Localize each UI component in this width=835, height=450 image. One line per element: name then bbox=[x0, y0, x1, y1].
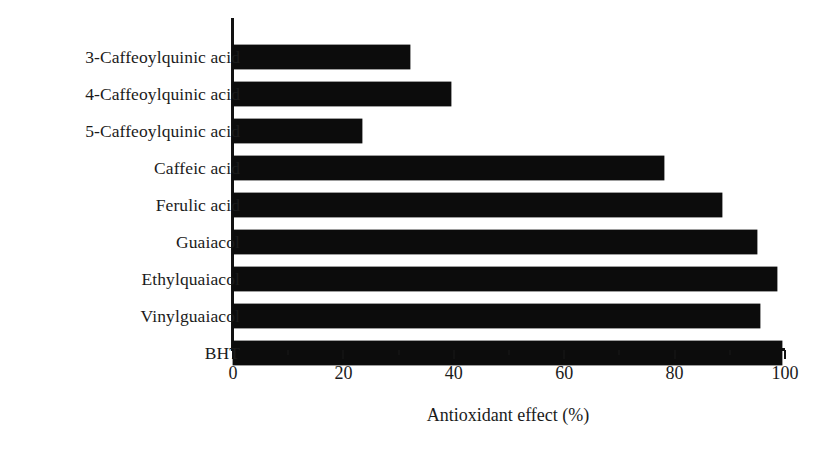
category-label: 4-Caffeoylquinic acid bbox=[10, 82, 240, 106]
bar-fill bbox=[233, 82, 451, 106]
x-axis-tick-label: 20 bbox=[313, 362, 373, 384]
x-axis-minor-tick bbox=[729, 350, 731, 355]
bar-fill bbox=[233, 45, 410, 69]
x-axis-major-tick bbox=[563, 350, 565, 359]
bar bbox=[233, 156, 664, 180]
category-label: 5-Caffeoylquinic acid bbox=[10, 119, 240, 143]
bar-fill bbox=[233, 193, 722, 217]
bar-fill bbox=[233, 119, 362, 143]
bar-fill bbox=[233, 156, 664, 180]
plot-area: 3-Caffeoylquinic acid4-Caffeoylquinic ac… bbox=[0, 0, 835, 450]
x-axis-minor-tick bbox=[398, 350, 400, 355]
antioxidant-effect-bar-chart: 3-Caffeoylquinic acid4-Caffeoylquinic ac… bbox=[0, 0, 835, 450]
category-label: Ethylquaiacol bbox=[10, 267, 240, 291]
bar-fill bbox=[233, 304, 760, 328]
category-label: 3-Caffeoylquinic acid bbox=[10, 45, 240, 69]
x-axis-tick-label: 80 bbox=[645, 362, 705, 384]
x-axis-major-tick bbox=[342, 350, 344, 359]
bar bbox=[233, 230, 757, 254]
category-label: Ferulic acid bbox=[10, 193, 240, 217]
x-axis-minor-tick bbox=[618, 350, 620, 355]
category-label: Caffeic acid bbox=[10, 156, 240, 180]
bar bbox=[233, 82, 451, 106]
bar bbox=[233, 119, 362, 143]
x-axis-major-tick bbox=[674, 350, 676, 359]
x-axis-minor-tick bbox=[287, 350, 289, 355]
bar bbox=[233, 193, 722, 217]
bar-fill bbox=[233, 267, 777, 291]
bar bbox=[233, 267, 777, 291]
x-axis-tick-label: 0 bbox=[203, 362, 263, 384]
x-axis-minor-tick bbox=[508, 350, 510, 355]
x-axis-tick-label: 60 bbox=[534, 362, 594, 384]
x-axis-major-tick bbox=[232, 350, 234, 359]
x-axis-major-tick bbox=[453, 350, 455, 359]
x-axis-title: Antioxidant effect (%) bbox=[231, 404, 785, 426]
bar bbox=[233, 45, 410, 69]
category-label: Guaiacol bbox=[10, 230, 240, 254]
x-axis-tick-label: 100 bbox=[755, 362, 815, 384]
bar bbox=[233, 304, 760, 328]
bar-fill bbox=[233, 230, 757, 254]
x-axis-tick-label: 40 bbox=[424, 362, 484, 384]
category-label: Vinylguaiacol bbox=[10, 304, 240, 328]
x-axis-major-tick bbox=[784, 350, 786, 359]
